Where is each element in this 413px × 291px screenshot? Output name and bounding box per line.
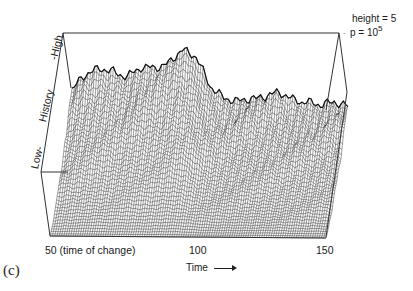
x-tick-100: 100 — [189, 244, 207, 256]
surface-mesh — [50, 48, 348, 239]
x-tick-150: 150 — [316, 244, 334, 256]
x-tick-50: 50 (time of change) — [45, 244, 135, 256]
tick-dot: . — [343, 27, 345, 36]
arrow-right-icon — [214, 268, 234, 269]
x-axis-title-text: Time — [186, 262, 208, 273]
panel-label: (c) — [3, 262, 20, 279]
annotation-p-exponent: 5 — [378, 24, 382, 33]
figure-panel-c: height = 5 p = 105 . -High History Low- … — [0, 0, 413, 291]
annotation-p: p = 105 — [350, 24, 383, 38]
annotation-height: height = 5 — [352, 13, 396, 24]
annotation-p-base: p = 10 — [350, 27, 378, 38]
x-axis-title: Time — [186, 262, 234, 273]
wireframe-surface — [50, 48, 348, 239]
